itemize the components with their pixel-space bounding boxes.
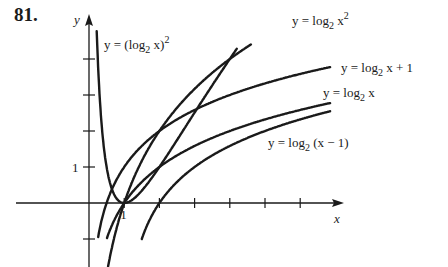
- curve-labels: y = (log2 x)2y = log2 x2y = log2 x + 1y …: [104, 10, 413, 153]
- label-log2x2: y = log2 x2: [292, 10, 349, 31]
- label-log2xp1: y = log2 x + 1: [341, 60, 413, 78]
- curve-log2xm1: [142, 111, 330, 239]
- curve-log2x2: [108, 45, 251, 267]
- label-log2x: y = log2 x: [323, 85, 375, 103]
- curve-log2x: [107, 103, 330, 238]
- curve-log2xp1: [98, 67, 330, 237]
- label-log2xm1: y = log2 (x − 1): [268, 135, 349, 153]
- label-sqlog: y = (log2 x)2: [104, 34, 169, 55]
- x-axis-label: x: [333, 211, 340, 226]
- graph: 11xy y = (log2 x)2y = log2 x2y = log2 x …: [0, 0, 448, 267]
- y-tick-label: 1: [72, 160, 79, 175]
- y-axis-label: y: [72, 12, 80, 27]
